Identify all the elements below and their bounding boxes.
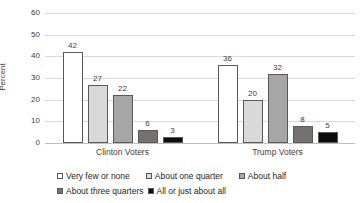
bar-value-label: 42 [55,41,91,50]
bar-value-label: 22 [105,84,141,93]
bar-very-few-or-none [218,65,238,143]
gridline [45,13,355,14]
legend-item: About three quarters [57,186,144,196]
legend-label: About half [248,171,286,181]
bar-value-label: 5 [310,121,346,130]
y-tick-label: 30 [22,73,40,82]
y-tick-label: 10 [22,116,40,125]
gridline [45,56,355,57]
y-tick-label: 20 [22,95,40,104]
legend-swatch-icon [57,173,63,179]
legend-item: About one quarter [146,171,223,181]
category-label: Trump Voters [200,147,355,157]
bar-chart: Percent 0102030405060 4227226336203285 C… [0,0,360,203]
legend-swatch-icon [146,173,152,179]
bar-very-few-or-none [63,52,83,143]
y-axis-title: Percent [0,47,10,107]
bar-about-half [268,74,288,143]
legend-label: About three quarters [66,186,144,196]
y-tick-label: 50 [22,30,40,39]
y-tick-label: 0 [22,138,40,147]
legend-label: About one quarter [155,171,223,181]
legend-swatch-icon [57,188,63,194]
legend-label: All or just about all [157,186,226,196]
bar-value-label: 3 [155,126,191,135]
gridline [45,35,355,36]
legend: Very few or noneAbout one quarterAbout h… [57,168,357,198]
category-label: Clinton Voters [45,147,200,157]
bar-value-label: 36 [210,54,246,63]
x-axis-line [45,143,355,144]
legend-row: Very few or noneAbout one quarterAbout h… [57,168,357,183]
y-tick-label: 40 [22,51,40,60]
bar-value-label: 32 [260,63,296,72]
legend-label: Very few or none [66,171,130,181]
legend-swatch-icon [148,188,154,194]
bar-all-or-just-about-all [163,137,183,144]
bar-value-label: 27 [80,74,116,83]
legend-item: Very few or none [57,171,130,181]
legend-swatch-icon [239,173,245,179]
bar-value-label: 20 [235,89,271,98]
bar-all-or-just-about-all [318,132,338,143]
bar-about-one-quarter [243,100,263,143]
legend-item: About half [239,171,286,181]
y-tick-label: 60 [22,8,40,17]
legend-item: All or just about all [148,186,226,196]
legend-row: About three quartersAll or just about al… [57,183,357,198]
plot-area: 4227226336203285 [45,13,355,143]
